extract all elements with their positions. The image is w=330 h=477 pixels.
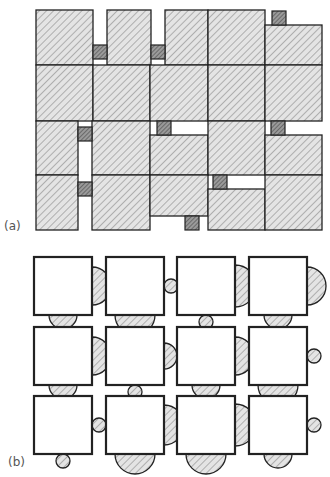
hatched-block	[150, 65, 208, 121]
hatched-block	[107, 10, 151, 65]
connector-square	[272, 11, 286, 25]
grid-square	[106, 396, 164, 454]
panel-b-square-grid	[34, 257, 326, 474]
hatched-block	[208, 65, 265, 121]
connector-square	[157, 121, 171, 135]
grid-square	[177, 327, 235, 385]
grid-square	[34, 396, 92, 454]
connector-square	[271, 121, 285, 135]
grid-square	[249, 257, 307, 315]
connector-square	[213, 175, 227, 189]
grid-square	[34, 257, 92, 315]
right-semicircle	[164, 343, 177, 369]
hatched-block	[93, 65, 150, 121]
hatched-block	[150, 175, 208, 216]
grid-square	[106, 257, 164, 315]
hatched-block	[208, 189, 265, 230]
figure-canvas	[0, 0, 330, 477]
bottom-semicircle	[115, 454, 155, 474]
panel-a-block-packing	[36, 10, 322, 230]
panel-b-label: (b)	[8, 455, 25, 469]
grid-square	[34, 327, 92, 385]
connector-square	[185, 216, 199, 230]
connector-square	[151, 45, 165, 59]
hatched-block	[36, 175, 78, 230]
hatched-block	[36, 121, 78, 175]
hatched-block	[265, 175, 322, 230]
hatched-block	[92, 121, 150, 175]
hatched-block	[265, 135, 322, 175]
right-circle	[92, 418, 106, 432]
hatched-block	[36, 65, 93, 121]
grid-square	[249, 396, 307, 454]
right-circle	[164, 279, 178, 293]
grid-square	[177, 396, 235, 454]
hatched-block	[208, 121, 265, 175]
right-circle	[307, 418, 321, 432]
grid-square	[177, 257, 235, 315]
panel-a-label: (a)	[4, 219, 21, 233]
hatched-block	[92, 175, 150, 230]
hatched-block	[36, 10, 93, 65]
bottom-semicircle	[186, 454, 226, 474]
grid-square	[249, 327, 307, 385]
right-semicircle	[307, 267, 326, 305]
bottom-circle	[56, 454, 70, 468]
bottom-semicircle	[264, 454, 292, 468]
hatched-block	[150, 135, 208, 175]
hatched-block	[265, 65, 322, 121]
right-circle	[307, 349, 321, 363]
hatched-block	[265, 25, 322, 65]
connector-square	[93, 45, 107, 59]
grid-square	[106, 327, 164, 385]
hatched-block	[165, 10, 208, 65]
connector-square	[78, 127, 92, 141]
connector-square	[78, 182, 92, 196]
hatched-block	[208, 10, 265, 65]
